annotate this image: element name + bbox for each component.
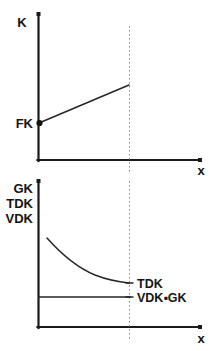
tdk-series-label: TDK <box>137 277 163 291</box>
bottom-panel: GK TDK VDK TDK VDK▪GK x <box>6 179 206 346</box>
top-y-axis-tip <box>37 12 41 16</box>
top-x-axis-tip <box>198 158 202 162</box>
top-y-axis-label: K <box>17 15 27 30</box>
two-panel-cost-chart: K x FK GK TDK VDK TDK VDK▪GK x <box>0 0 219 351</box>
bottom-x-axis-label: x <box>197 331 205 346</box>
top-panel: K x FK <box>16 12 206 178</box>
bottom-x-axis-tip <box>198 325 202 329</box>
tdk-curve <box>47 238 129 283</box>
top-k-line <box>39 85 129 123</box>
fk-label: FK <box>16 116 34 131</box>
bottom-y-axis-tip <box>37 179 41 183</box>
bottom-y-axis-label-vdk: VDK <box>6 211 34 226</box>
top-x-axis-label: x <box>197 163 205 178</box>
bottom-y-axis-label-tdk: TDK <box>6 196 33 211</box>
vdk-gk-series-label: VDK▪GK <box>137 291 187 305</box>
fk-intercept-dot <box>36 120 42 126</box>
bottom-y-axis-label-gk: GK <box>14 181 34 196</box>
